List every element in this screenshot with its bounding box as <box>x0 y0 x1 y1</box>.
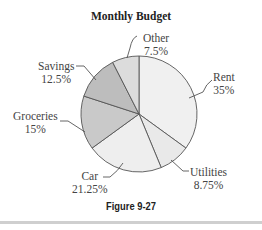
leader-line <box>127 36 137 58</box>
label-other-pct: 7.5% <box>143 45 169 58</box>
label-groceries-pct: 15% <box>13 123 58 136</box>
figure-caption: Figure 9-27 <box>20 200 243 212</box>
label-savings: Savings 12.5% <box>38 60 74 86</box>
label-utilities-name: Utilities <box>190 166 227 179</box>
label-rent: Rent 35% <box>213 71 235 97</box>
label-other-name: Other <box>143 32 169 45</box>
leader-line <box>171 160 189 171</box>
label-utilities-pct: 8.75% <box>190 179 227 192</box>
label-rent-name: Rent <box>213 71 235 84</box>
label-rent-pct: 35% <box>213 84 235 97</box>
label-groceries: Groceries 15% <box>13 110 58 136</box>
label-car-pct: 21.25% <box>72 183 107 196</box>
label-savings-pct: 12.5% <box>38 73 74 86</box>
divider <box>0 221 262 224</box>
label-groceries-name: Groceries <box>13 110 58 123</box>
label-car: Car 21.25% <box>72 170 107 196</box>
label-savings-name: Savings <box>38 60 74 73</box>
label-utilities: Utilities 8.75% <box>190 166 227 192</box>
label-car-name: Car <box>72 170 107 183</box>
label-other: Other 7.5% <box>143 32 169 58</box>
